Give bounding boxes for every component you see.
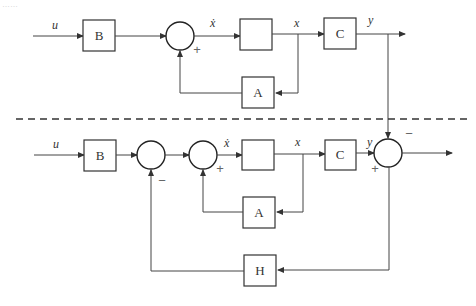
top-block-c-label: C [336, 26, 345, 41]
top-xdot-label: ẋ [209, 16, 216, 30]
bottom-diagram: u B − + ẋ x C y − + [34, 126, 452, 286]
bottom-sum2-plus-sign: + [216, 161, 224, 176]
top-sum-junction [166, 22, 194, 50]
header-fragment: …… [2, 0, 18, 9]
bottom-integrator-block [242, 140, 274, 170]
top-a-to-sum-feedback [180, 51, 242, 93]
top-input-label: u [52, 18, 58, 32]
bottom-sum2-junction [189, 141, 217, 169]
bottom-sum3-plus-sign: + [371, 161, 379, 176]
top-x-to-a-feedback [276, 34, 298, 93]
bottom-a-to-sum2-feedback [203, 170, 243, 212]
bottom-sum3-minus-sign: − [405, 126, 413, 141]
top-x-label: x [293, 16, 300, 30]
top-block-b-label: B [95, 28, 104, 43]
bottom-xdot-label: ẋ [223, 136, 230, 150]
bottom-sum1-minus-sign: − [158, 173, 166, 188]
bottom-sum1-junction [137, 141, 165, 169]
top-block-a-label: A [253, 85, 263, 100]
bottom-block-c-label: C [336, 147, 345, 162]
top-sum-plus-sign: + [193, 42, 201, 57]
bottom-block-b-label: B [96, 148, 105, 163]
bottom-sum3-to-h-feedback [278, 167, 389, 270]
bottom-x-label: x [294, 135, 301, 149]
top-y-label: y [367, 13, 374, 27]
bottom-input-label: u [53, 137, 59, 151]
top-integrator-block [240, 19, 272, 50]
bottom-block-h-label: H [255, 263, 264, 278]
bottom-block-a-label: A [254, 205, 264, 220]
block-diagram: …… u B + ẋ x C y A [0, 0, 476, 306]
bottom-y-label: y [366, 135, 373, 149]
top-diagram: u B + ẋ x C y A [33, 13, 405, 108]
bottom-x-to-a-feedback [277, 154, 303, 212]
